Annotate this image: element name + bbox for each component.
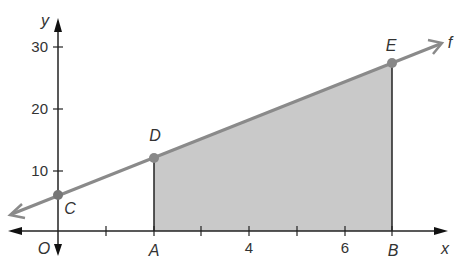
graph-figure: 30 20 10 4 6 y x O A B C D E f <box>0 0 458 258</box>
x-axis-label: x <box>440 240 450 257</box>
x-tick-6: 6 <box>341 239 349 256</box>
y-axis-label: y <box>40 12 50 29</box>
shaded-region <box>154 63 392 231</box>
y-axis <box>53 18 63 256</box>
label-C: C <box>64 200 76 217</box>
y-tick-30: 30 <box>31 38 48 55</box>
y-tick-10: 10 <box>31 162 48 179</box>
x-tick-4: 4 <box>245 239 253 256</box>
label-f: f <box>448 34 454 51</box>
y-tick-20: 20 <box>31 100 48 117</box>
origin-label: O <box>38 240 50 257</box>
point-C <box>53 190 63 200</box>
label-B: B <box>388 242 399 258</box>
label-A: A <box>148 242 160 258</box>
point-E <box>387 58 397 68</box>
point-D <box>149 153 159 163</box>
label-D: D <box>149 127 161 144</box>
label-E: E <box>386 37 397 54</box>
